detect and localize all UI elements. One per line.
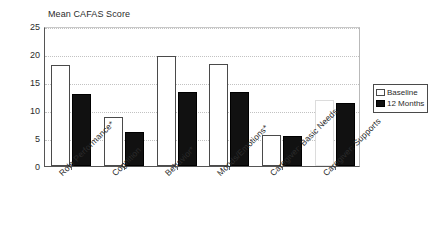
y-axis-tick-label: 5 (4, 134, 40, 144)
y-axis-tick-label: 25 (4, 22, 40, 32)
legend-label: Baseline (387, 88, 418, 98)
bar-baseline (51, 65, 70, 166)
bar-baseline (157, 56, 176, 166)
y-axis-tick-label: 10 (4, 106, 40, 116)
bar-group (104, 28, 144, 166)
legend-label: 12 Months (387, 99, 424, 109)
chart-title: Mean CAFAS Score (48, 9, 130, 19)
x-axis-category-labels: Role Performance*CognitionBehavior*Moods… (0, 168, 440, 251)
y-axis-tick-label: 20 (4, 50, 40, 60)
legend-item: Baseline (376, 87, 424, 98)
legend-swatch-12-months (376, 100, 385, 107)
cafas-bar-chart: Mean CAFAS Score 0510152025 Role Perform… (0, 0, 440, 251)
y-axis-tick-label: 15 (4, 78, 40, 88)
y-axis-tick-labels: 0510152025 (0, 27, 40, 167)
bar-baseline (209, 64, 228, 166)
legend-item: 12 Months (376, 98, 424, 109)
legend-swatch-baseline (376, 89, 385, 96)
chart-legend: Baseline12 Months (373, 84, 428, 113)
